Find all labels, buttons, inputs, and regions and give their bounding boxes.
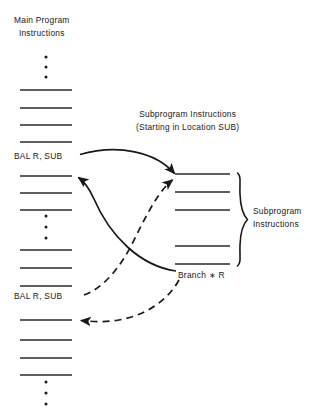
bracket-caption-line1: Subprogram <box>253 205 302 218</box>
bal-instruction-top: BAL R, SUB <box>14 150 62 163</box>
call-arrow-bottom <box>84 180 173 295</box>
return-arrow-bottom <box>81 280 179 322</box>
ellipsis-dot <box>45 66 48 69</box>
subroutine-linkage-diagram: Main Program Instructions Subprogram Ins… <box>0 0 325 419</box>
subprogram-instruction-rules <box>175 174 230 264</box>
main-program-caption-line1: Main Program <box>14 14 70 27</box>
main-program-instruction-rules <box>20 90 72 375</box>
subprogram-header-caption: Subprogram Instructions (Starting in Loc… <box>136 108 239 133</box>
main-program-caption-line2: Instructions <box>14 27 70 40</box>
ellipsis-dot <box>45 56 48 59</box>
return-arrow-top <box>79 178 177 272</box>
subprogram-brace <box>238 173 248 266</box>
subprogram-header-line2: (Starting in Location SUB) <box>136 121 239 134</box>
ellipsis-dot <box>45 403 48 406</box>
ellipsis-dot <box>45 226 48 229</box>
branch-instruction: Branch ∗ R <box>178 269 225 282</box>
main-program-caption: Main Program Instructions <box>14 14 70 39</box>
ellipsis-dot <box>45 392 48 395</box>
bracket-caption-line2: Instructions <box>253 218 302 231</box>
ellipsis-dot <box>45 76 48 79</box>
bal-instruction-bottom: BAL R, SUB <box>14 290 62 303</box>
ellipsis-dot <box>45 381 48 384</box>
subprogram-header-line1: Subprogram Instructions <box>136 108 239 121</box>
call-arrow-top <box>80 150 175 174</box>
ellipsis-dot <box>45 215 48 218</box>
ellipsis-dot <box>45 237 48 240</box>
subprogram-bracket-caption: Subprogram Instructions <box>253 205 302 230</box>
